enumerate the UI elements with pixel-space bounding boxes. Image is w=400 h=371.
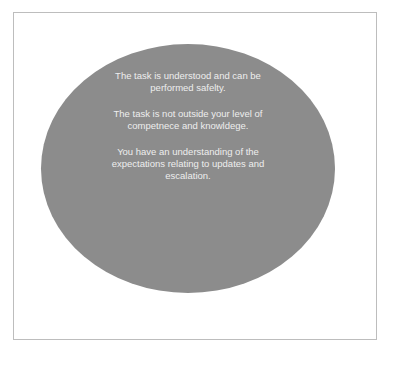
criterion-escalation-expectations: You have an understanding of the expecta… [98, 146, 278, 182]
criteria-ellipse: The task is understood and can be perfor… [41, 44, 335, 293]
criterion-task-understood: The task is understood and can be perfor… [103, 70, 273, 94]
criterion-within-competence: The task is not outside your level of co… [98, 108, 278, 132]
